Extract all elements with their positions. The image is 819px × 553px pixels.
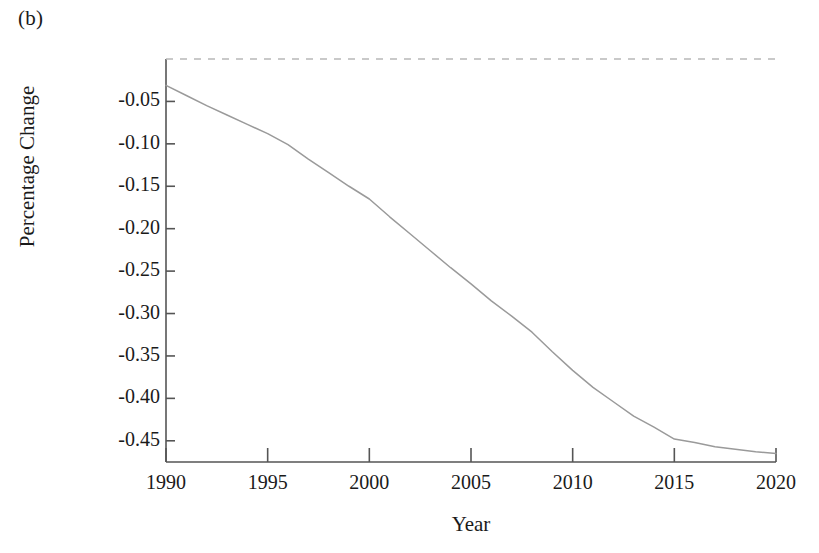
y-axis-tick-label: -0.10 (88, 131, 160, 154)
y-axis-tick-label: -0.05 (88, 88, 160, 111)
y-axis-tick-label: -0.20 (88, 216, 160, 239)
data-series-line (166, 85, 776, 453)
y-axis-tick-label: -0.30 (88, 301, 160, 324)
x-axis-title: Year (166, 512, 776, 537)
figure-panel-b: (b) Percentage Change Year -0.05-0.10-0.… (0, 0, 819, 553)
x-axis-tick-label: 1995 (223, 471, 313, 494)
panel-label: (b) (18, 8, 43, 29)
axis-spines (166, 59, 776, 462)
y-axis-tick-label: -0.35 (88, 343, 160, 366)
x-axis-tick-label: 1990 (121, 471, 211, 494)
y-axis-tick-label: -0.15 (88, 173, 160, 196)
y-axis-tick-label: -0.25 (88, 258, 160, 281)
y-axis-tick-label: -0.40 (88, 385, 160, 408)
x-axis-tick-labels: 1990199520002005201020152020 (0, 471, 819, 503)
y-axis-ticks (166, 101, 175, 440)
x-axis-tick-label: 2015 (629, 471, 719, 494)
y-axis-tick-label: -0.45 (88, 428, 160, 451)
x-axis-tick-label: 2020 (731, 471, 819, 494)
x-axis-tick-label: 2005 (426, 471, 516, 494)
x-axis-tick-label: 2000 (324, 471, 414, 494)
y-axis-title: Percentage Change (15, 52, 40, 282)
x-axis-tick-label: 2010 (528, 471, 618, 494)
x-axis-ticks (166, 448, 776, 462)
